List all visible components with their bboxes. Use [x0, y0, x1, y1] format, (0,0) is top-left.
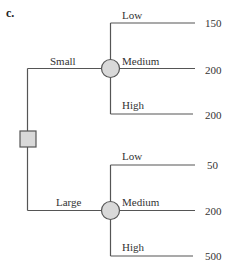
outcome-label-small-high: High: [122, 99, 144, 111]
outcome-value-large-medium: 200: [205, 205, 222, 217]
outcome-value-small-high: 200: [205, 109, 222, 121]
outcome-label-large-low: Low: [122, 150, 142, 162]
branch-label-small: Small: [50, 55, 76, 67]
outcome-label-small-medium: Medium: [122, 55, 159, 67]
chance-node-small: [102, 60, 120, 78]
outcome-label-large-high: High: [122, 241, 144, 253]
outcome-value-small-medium: 200: [205, 64, 222, 76]
outcome-value-large-low: 50: [207, 159, 218, 171]
outcome-value-small-low: 150: [205, 17, 222, 29]
outcome-value-large-high: 500: [205, 250, 222, 262]
outcome-label-small-low: Low: [122, 9, 142, 21]
decision-tree-lines: [0, 0, 226, 262]
branch-label-large: Large: [56, 196, 81, 208]
decision-node-square: [20, 131, 36, 147]
chance-node-large: [102, 202, 120, 220]
outcome-label-large-medium: Medium: [122, 196, 159, 208]
